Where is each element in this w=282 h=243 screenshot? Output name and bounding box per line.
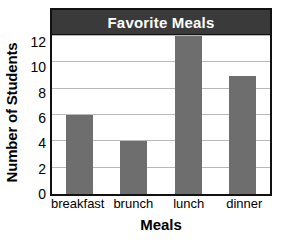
- bar-slot: [216, 36, 271, 194]
- y-axis-tick-label: 4: [38, 136, 46, 150]
- bar-slot: [161, 36, 216, 194]
- bar-chart-figure: Number of Students 024681012 Favorite Me…: [0, 0, 282, 243]
- x-axis-tick-label: breakfast: [50, 197, 106, 211]
- chart-title-text: Favorite Meals: [107, 14, 214, 31]
- y-axis-tick-label: 2: [38, 162, 46, 176]
- bar-lunch: [175, 36, 202, 194]
- bar-slot: [52, 36, 107, 194]
- y-axis-tick-label: 10: [30, 60, 46, 74]
- y-axis-title-text: Number of Students: [4, 43, 21, 183]
- bar-brunch: [120, 141, 147, 194]
- chart-title-banner: Favorite Meals: [52, 10, 270, 36]
- x-axis-tick-labels: breakfastbrunchlunchdinner: [50, 197, 272, 215]
- x-axis-title-text: Meals: [140, 216, 182, 233]
- bar-dinner: [229, 76, 256, 195]
- y-axis-tick-label: 12: [30, 35, 46, 49]
- y-axis-tick-label: 6: [38, 111, 46, 125]
- plot-area: [52, 36, 270, 194]
- x-axis-title: Meals: [50, 216, 272, 233]
- plot-frame: Favorite Meals: [50, 8, 272, 196]
- y-axis-title: Number of Students: [0, 30, 24, 195]
- x-axis-tick-label: brunch: [106, 197, 162, 211]
- y-axis-tick-labels: 024681012: [24, 42, 48, 194]
- y-axis-tick-label: 0: [38, 187, 46, 201]
- x-axis-tick-label: dinner: [217, 197, 273, 211]
- bar-series: [52, 36, 270, 194]
- bar-breakfast: [66, 115, 93, 194]
- bar-slot: [107, 36, 162, 194]
- y-axis-tick-label: 8: [38, 86, 46, 100]
- x-axis-tick-label: lunch: [161, 197, 217, 211]
